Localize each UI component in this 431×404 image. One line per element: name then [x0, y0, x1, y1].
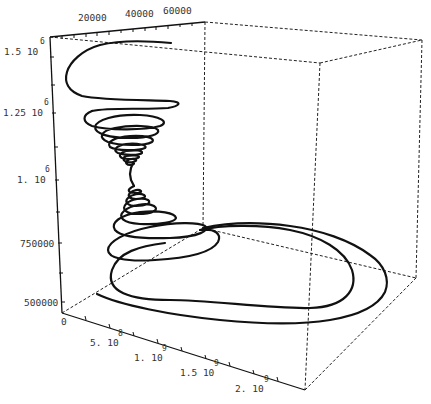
left-tick-exponent: 6: [44, 99, 49, 107]
bottom-tick-label: 5. 10: [90, 338, 119, 348]
top-tick-label: 60000: [163, 6, 192, 16]
left-tick-label: 1. 10: [17, 175, 46, 185]
top-tick-label: 40000: [125, 9, 154, 19]
axes: [50, 22, 305, 390]
bottom-tick-label: 0: [61, 317, 67, 327]
bottom-tick-label: 1.5 10: [180, 368, 214, 378]
plot-3d: [0, 0, 431, 404]
bottom-tick-exponent: 8: [118, 330, 123, 338]
left-tick-label: 1.25 10: [3, 108, 43, 118]
top-tick-label: 20000: [78, 13, 107, 23]
left-tick-exponent: 6: [45, 166, 50, 174]
left-tick-label: 500000: [24, 298, 58, 308]
tick-marks: [50, 23, 278, 381]
x-axis: [50, 22, 205, 37]
z-axis: [50, 37, 62, 313]
bottom-tick-exponent: 9: [264, 376, 269, 384]
bottom-tick-label: 1. 10: [134, 353, 163, 363]
left-tick-exponent: 6: [40, 38, 45, 46]
bottom-tick-exponent: 9: [214, 360, 219, 368]
left-tick-label: 750000: [20, 239, 54, 249]
bottom-tick-label: 2. 10: [235, 384, 264, 394]
bounding-box: [50, 22, 422, 390]
left-tick-label: 1.5 10: [4, 47, 38, 57]
bottom-tick-exponent: 9: [162, 345, 167, 353]
